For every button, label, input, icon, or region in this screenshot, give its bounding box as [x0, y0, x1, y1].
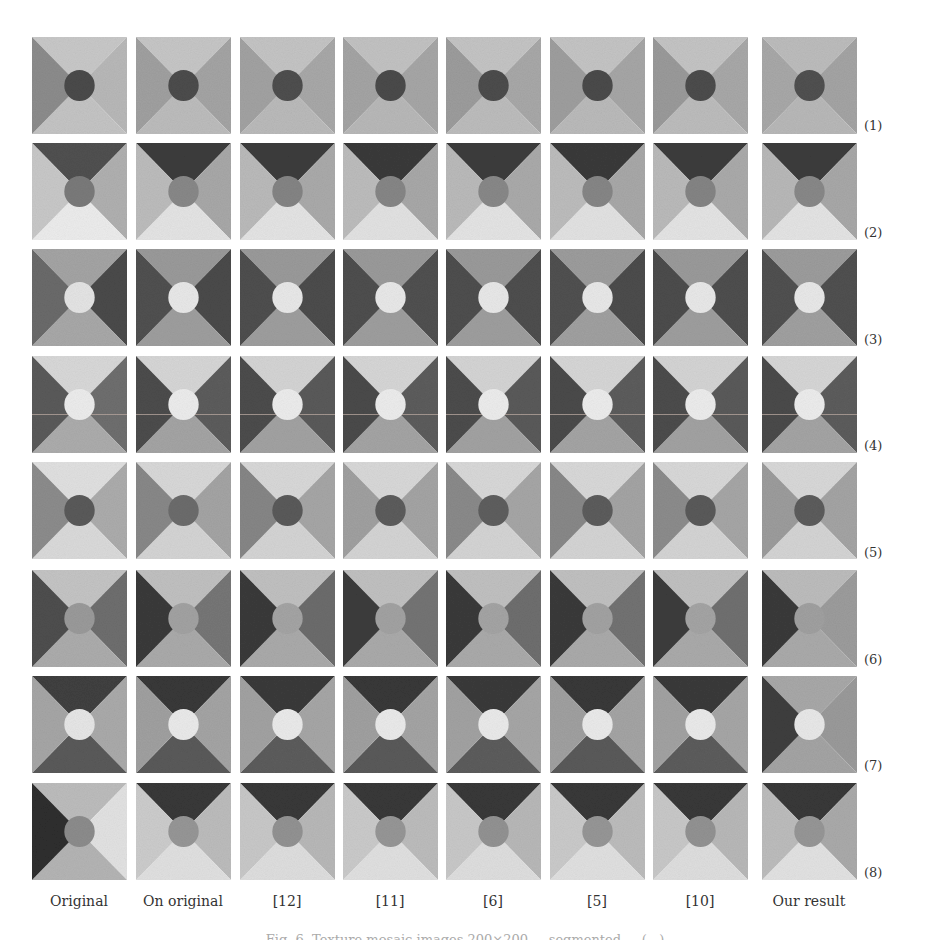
segmentation-tile	[32, 783, 127, 880]
segmentation-tile	[32, 37, 127, 134]
row-label: (8)	[864, 865, 882, 880]
segmentation-tile	[136, 37, 231, 134]
segmentation-tile	[762, 783, 857, 880]
column-label-ref-11: [11]	[335, 893, 445, 909]
segmentation-tile	[762, 143, 857, 240]
segmentation-tile	[762, 37, 857, 134]
column-label-our-result: Our result	[754, 893, 864, 909]
segmentation-tile	[240, 462, 335, 559]
segmentation-tile	[343, 143, 438, 240]
segmentation-tile	[762, 462, 857, 559]
segmentation-tile	[32, 570, 127, 667]
segmentation-tile	[446, 37, 541, 134]
segmentation-tile	[762, 249, 857, 346]
segmentation-tile	[550, 356, 645, 453]
segmentation-tile	[446, 356, 541, 453]
segmentation-tile	[550, 143, 645, 240]
segmentation-tile	[32, 249, 127, 346]
segmentation-tile	[550, 249, 645, 346]
segmentation-tile	[550, 676, 645, 773]
segmentation-tile	[240, 356, 335, 453]
segmentation-tile	[343, 570, 438, 667]
segmentation-tile	[136, 676, 231, 773]
segmentation-tile	[240, 570, 335, 667]
segmentation-tile	[343, 676, 438, 773]
segmentation-tile	[32, 676, 127, 773]
segmentation-tile	[32, 462, 127, 559]
figure-caption: Fig. 6. Texture mosaic images 200×200 ..…	[0, 928, 930, 940]
column-label-on-original: On original	[128, 893, 238, 909]
segmentation-tile	[136, 462, 231, 559]
segmentation-tile	[550, 462, 645, 559]
segmentation-tile	[653, 462, 748, 559]
segmentation-tile	[240, 783, 335, 880]
segmentation-tile	[240, 249, 335, 346]
segmentation-tile	[343, 356, 438, 453]
segmentation-tile	[762, 570, 857, 667]
segmentation-tile	[136, 356, 231, 453]
column-label-original: Original	[24, 893, 134, 909]
segmentation-tile	[550, 570, 645, 667]
segmentation-tile	[653, 570, 748, 667]
segmentation-tile	[240, 143, 335, 240]
segmentation-tile	[343, 783, 438, 880]
row-label: (6)	[864, 652, 882, 667]
column-label-ref-6: [6]	[438, 893, 548, 909]
segmentation-tile	[446, 462, 541, 559]
segmentation-tile	[446, 783, 541, 880]
segmentation-tile	[762, 676, 857, 773]
row-label: (1)	[864, 118, 882, 133]
column-label-ref-5: [5]	[542, 893, 652, 909]
figure-texture-segmentation-grid: (1)(2)(3)(4)(5)(6)(7)(8) Original On ori…	[0, 0, 930, 940]
column-label-ref-10: [10]	[645, 893, 755, 909]
segmentation-tile	[550, 37, 645, 134]
row-label: (7)	[864, 758, 882, 773]
segmentation-tile	[240, 676, 335, 773]
row-label: (5)	[864, 545, 882, 560]
segmentation-tile	[136, 143, 231, 240]
segmentation-tile	[762, 356, 857, 453]
row-label: (3)	[864, 332, 882, 347]
segmentation-tile	[653, 676, 748, 773]
segmentation-tile	[550, 783, 645, 880]
segmentation-tile	[653, 783, 748, 880]
column-label-ref-12: [12]	[232, 893, 342, 909]
segmentation-tile	[136, 570, 231, 667]
segmentation-tile	[446, 249, 541, 346]
segmentation-tile	[653, 143, 748, 240]
segmentation-tile	[446, 143, 541, 240]
segmentation-tile	[343, 462, 438, 559]
segmentation-tile	[136, 249, 231, 346]
row-label: (4)	[864, 438, 882, 453]
segmentation-tile	[136, 783, 231, 880]
segmentation-tile	[446, 676, 541, 773]
segmentation-tile	[653, 356, 748, 453]
segmentation-tile	[343, 37, 438, 134]
row-label: (2)	[864, 225, 882, 240]
segmentation-tile	[32, 356, 127, 453]
segmentation-tile	[240, 37, 335, 134]
segmentation-tile	[446, 570, 541, 667]
segmentation-tile	[343, 249, 438, 346]
segmentation-tile	[653, 37, 748, 134]
segmentation-tile	[32, 143, 127, 240]
segmentation-tile	[653, 249, 748, 346]
